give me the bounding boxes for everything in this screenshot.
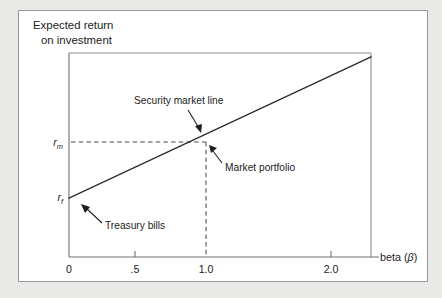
annotation-security-market-line: Security market line	[134, 95, 224, 133]
x-axis-title-close: )	[414, 251, 418, 263]
x-tick-label-half: .5	[131, 263, 140, 275]
x-axis-title-text: beta (	[380, 251, 408, 263]
annotation-security-market-line-arrowhead	[195, 124, 202, 133]
annotation-market-portfolio: Market portfolio	[209, 145, 296, 173]
x-tick-label-two: 2.0	[324, 263, 339, 275]
figure-panel: Expected return on investment rm rf	[18, 10, 428, 282]
chart-title-line2: on investment	[41, 34, 113, 46]
rm-subscript: m	[57, 142, 63, 151]
security-market-line	[69, 57, 371, 198]
svg-text:rf: rf	[57, 191, 64, 206]
annotation-treasury-bills-label: Treasury bills	[105, 220, 165, 231]
x-tick-label-one: 1.0	[199, 263, 214, 275]
y-axis-label-rm: rm	[53, 136, 63, 151]
x-axis-ticks	[135, 251, 331, 257]
rf-subscript: f	[61, 197, 64, 206]
annotation-treasury-bills: Treasury bills	[81, 204, 165, 231]
annotation-security-market-line-label: Security market line	[134, 95, 224, 106]
annotation-security-market-line-leader	[188, 110, 199, 128]
svg-text:rm: rm	[53, 136, 63, 151]
chart-title-line1: Expected return	[33, 19, 113, 31]
x-tick-label-0: 0	[66, 263, 72, 275]
annotation-market-portfolio-label: Market portfolio	[225, 162, 296, 173]
annotation-treasury-bills-arrowhead	[81, 204, 90, 213]
security-market-line-chart: Expected return on investment rm rf	[19, 11, 427, 281]
x-axis-title: beta (β)	[380, 251, 417, 263]
beta-symbol: β	[407, 251, 414, 263]
annotation-treasury-bills-leader	[87, 209, 102, 223]
y-axis-label-rf: rf	[57, 191, 64, 206]
annotation-market-portfolio-leader	[213, 151, 222, 163]
